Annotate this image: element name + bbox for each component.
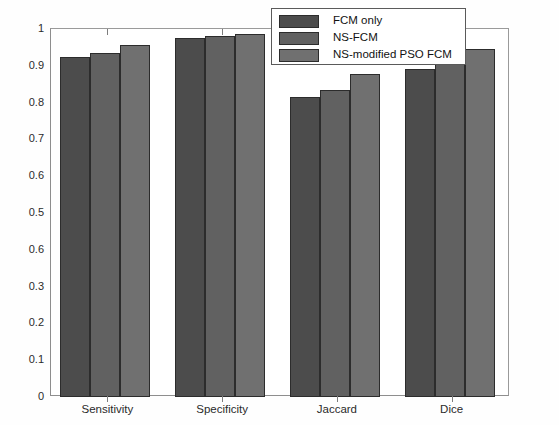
legend-color-swatch — [279, 15, 319, 28]
x-axis-tick-mark — [222, 396, 223, 402]
x-axis-tick-mark — [337, 396, 338, 402]
y-axis-tick-label: 0.6 — [0, 243, 44, 254]
legend-entry: FCM only — [279, 14, 382, 28]
figure-canvas: 00.10.20.30.60.50.60.70.80.91 Sensitivit… — [0, 0, 559, 425]
legend-entry-label: NS-modified PSO FCM — [333, 49, 452, 61]
legend-entry: NS-FCM — [279, 31, 378, 45]
y-axis-tick-label: 0 — [0, 391, 44, 402]
legend-color-swatch — [279, 49, 319, 62]
bar — [175, 38, 205, 397]
x-axis-tick-mark-top — [222, 29, 223, 35]
y-axis-tick-label: 1 — [0, 23, 44, 34]
legend-entry-label: NS-FCM — [333, 32, 378, 44]
y-axis-tick-label: 0.1 — [0, 354, 44, 365]
bar — [435, 57, 465, 397]
legend-color-swatch — [279, 32, 319, 45]
bar — [350, 74, 380, 397]
y-axis-tick-label: 0.7 — [0, 133, 44, 144]
x-axis-tick-mark-top — [107, 29, 108, 35]
bar — [90, 53, 120, 397]
bar — [320, 90, 350, 397]
chart-legend: FCM onlyNS-FCMNS-modified PSO FCM — [271, 8, 466, 65]
y-axis-tick-label: 0.6 — [0, 170, 44, 181]
x-axis-tick-mark — [452, 396, 453, 402]
y-axis-tick-label: 0.5 — [0, 207, 44, 218]
bar — [120, 45, 150, 397]
bar — [290, 97, 320, 397]
y-axis-tick-label: 0.2 — [0, 317, 44, 328]
y-axis-tick-label: 0.8 — [0, 96, 44, 107]
legend-entry-label: FCM only — [333, 15, 382, 27]
bar — [465, 49, 495, 397]
x-axis-tick-label: Dice — [372, 403, 532, 416]
plot-area — [50, 28, 509, 396]
bar — [205, 36, 235, 397]
bar — [235, 34, 265, 397]
bar — [60, 57, 90, 397]
legend-entry: NS-modified PSO FCM — [279, 48, 452, 62]
y-axis-tick-label: 0.3 — [0, 280, 44, 291]
y-axis-tick-label: 0.9 — [0, 59, 44, 70]
x-axis-tick-mark — [107, 396, 108, 402]
bar — [405, 69, 435, 397]
